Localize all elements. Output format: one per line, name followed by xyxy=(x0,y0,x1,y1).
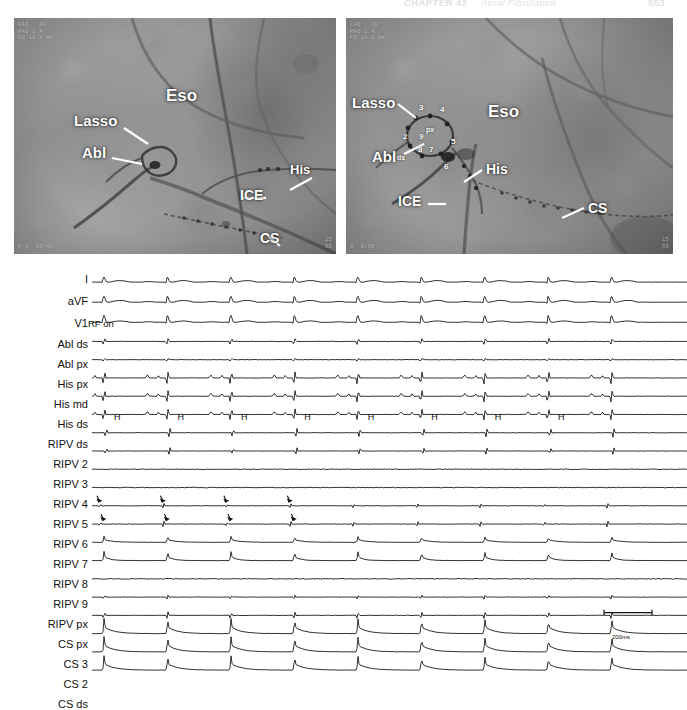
his-marker: H xyxy=(431,412,438,422)
wave-ripv-6 xyxy=(92,521,687,526)
channel-label-column: I aVF V1 Abl ds Abl px His px His md His… xyxy=(0,262,92,682)
fluoro-label-eso-right: Eso xyxy=(488,102,519,122)
pv-potential-arrowhead xyxy=(224,499,228,502)
wave-ripv-2 xyxy=(92,448,687,455)
rf-on-annotation: RF on xyxy=(88,318,114,329)
pv-potential-arrowhead xyxy=(228,518,232,521)
wave-ripv-8 xyxy=(92,551,687,560)
fluoro-label-abl-right: Abl xyxy=(372,148,396,165)
lasso-electrode-ds: ds xyxy=(397,154,405,161)
channel-label-abl-px: Abl px xyxy=(57,358,88,370)
channel-label-ripv-8: RIPV 8 xyxy=(53,578,88,590)
channel-label-i: I xyxy=(85,273,88,285)
fluoro-leader-lines-left xyxy=(14,18,336,254)
pv-potential-arrowhead xyxy=(101,518,105,521)
fluoro-leader-lines-right xyxy=(346,18,673,254)
his-marker: H xyxy=(495,412,502,422)
lasso-electrode-9: 9 xyxy=(419,132,423,141)
channel-label-v1: V1 xyxy=(75,317,88,329)
wave-i xyxy=(92,277,687,283)
fluoroscopy-image-lao: LAO 60 RAO 1.4 FD 19.0 mm 0 0/60 15 55 L… xyxy=(346,18,673,254)
wave-avf xyxy=(92,296,687,303)
fluoro-label-ice-left: ICE xyxy=(240,187,263,203)
fluoro-label-cs-right: CS xyxy=(588,200,607,216)
channel-label-cs-3: CS 3 xyxy=(64,658,88,670)
his-marker: H xyxy=(114,412,121,422)
fluoro-label-lasso-right: Lasso xyxy=(352,94,395,111)
fluoroscopy-image-rao: RAO 40 RAO 1.4 FD 19.0 mm F 0 95/40 15 5… xyxy=(14,18,336,254)
pv-potential-arrowhead xyxy=(292,518,296,521)
fluoro-label-ice-right: ICE xyxy=(398,193,421,209)
wave-cs-2 xyxy=(92,637,687,652)
fluoro-label-cs-left: CS xyxy=(260,230,279,246)
wave-ripv-3 xyxy=(92,469,687,470)
pv-potential-arrowhead xyxy=(97,499,101,502)
his-marker: H xyxy=(241,412,248,422)
channel-label-his-ds: His ds xyxy=(57,418,88,430)
his-marker: H xyxy=(177,412,184,422)
wave-ripv-ds xyxy=(92,428,687,437)
electrogram-panel: I aVF V1 Abl ds Abl px His px His md His… xyxy=(0,262,687,682)
channel-label-ripv-9: RIPV 9 xyxy=(53,598,88,610)
fluoro-label-lasso-left: Lasso xyxy=(74,112,117,129)
fluoro-label-his-left: His xyxy=(290,162,310,177)
channel-label-avf: aVF xyxy=(68,295,88,307)
running-head-title: Atrial Fibrillation xyxy=(481,0,556,8)
lasso-electrode-7: 7 xyxy=(429,145,433,154)
pv-potential-arrowhead xyxy=(165,518,169,521)
running-head-chapter: CHAPTER 42 xyxy=(404,0,467,8)
wave-ripv-7 xyxy=(92,536,687,542)
lasso-electrode-8: 8 xyxy=(418,145,422,154)
channel-label-ripv-ds: RIPV ds xyxy=(48,438,88,450)
channel-label-cs-ds: CS ds xyxy=(58,698,88,710)
wave-his-md xyxy=(92,391,687,402)
channel-label-ripv-3: RIPV 3 xyxy=(53,478,88,490)
channel-label-ripv-2: RIPV 2 xyxy=(53,458,88,470)
wave-cs-3 xyxy=(92,618,687,633)
wave-abl-ds xyxy=(92,339,687,345)
channel-label-abl-ds: Abl ds xyxy=(57,338,88,350)
electrogram-waveforms xyxy=(92,262,687,682)
channel-label-ripv-5: RIPV 5 xyxy=(53,518,88,530)
lasso-electrode-px: px xyxy=(426,126,434,133)
pv-potential-arrowhead xyxy=(161,499,165,502)
his-marker: H xyxy=(558,412,565,422)
channel-label-ripv-4: RIPV 4 xyxy=(53,498,88,510)
wave-ripv-9 xyxy=(92,578,687,579)
wave-v1 xyxy=(92,315,687,323)
wave-his-px xyxy=(92,372,687,384)
lasso-electrode-3: 3 xyxy=(419,103,423,112)
wave-ripv-4 xyxy=(92,487,687,488)
channel-label-ripv-px: RIPV px xyxy=(48,618,88,630)
wave-abl-px xyxy=(92,358,687,361)
fluoro-label-his-right: His xyxy=(486,161,508,177)
wave-cs-px xyxy=(92,612,687,619)
his-marker: H xyxy=(304,412,311,422)
running-head: CHAPTER 42 Atrial Fibrillation 553 xyxy=(0,0,687,11)
wave-ripv-5 xyxy=(92,504,687,509)
channel-label-ripv-6: RIPV 6 xyxy=(53,538,88,550)
scale-bar-label: 200ms xyxy=(612,634,630,640)
wave-ripv-px xyxy=(92,595,687,599)
fluoro-label-eso-left: Eso xyxy=(166,86,197,106)
channel-label-cs-px: CS px xyxy=(58,638,88,650)
lasso-electrode-5: 5 xyxy=(451,137,455,146)
lasso-electrode-4: 4 xyxy=(440,105,444,114)
fluoro-label-abl-left: Abl xyxy=(82,144,106,161)
channel-label-his-px: His px xyxy=(57,378,88,390)
channel-label-cs-2: CS 2 xyxy=(64,678,88,690)
channel-label-ripv-7: RIPV 7 xyxy=(53,558,88,570)
wave-cs-ds xyxy=(92,656,687,671)
pv-potential-arrowhead xyxy=(288,499,292,502)
lasso-electrode-6: 6 xyxy=(444,162,448,171)
lasso-electrode-2: 2 xyxy=(403,132,407,141)
page-number: 553 xyxy=(648,0,665,8)
his-marker: H xyxy=(368,412,375,422)
channel-label-his-md: His md xyxy=(54,398,88,410)
